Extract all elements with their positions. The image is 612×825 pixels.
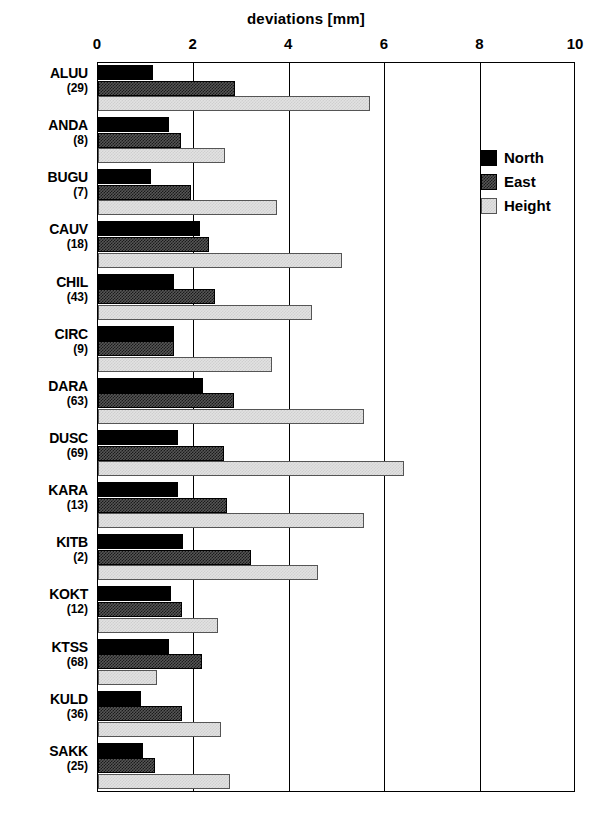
bar-aluu-east bbox=[98, 81, 235, 96]
bar-dara-east bbox=[98, 393, 234, 408]
legend-label-north: North bbox=[504, 150, 544, 166]
category-label-kara: KARA(13) bbox=[0, 483, 88, 512]
category-label-anda: ANDA(8) bbox=[0, 118, 88, 147]
station-count: (2) bbox=[0, 550, 88, 564]
station-name: CHIL bbox=[0, 275, 88, 290]
bar-circ-north bbox=[98, 326, 174, 341]
bar-dusc-north bbox=[98, 430, 178, 445]
station-name: KTSS bbox=[0, 640, 88, 655]
bar-kokt-north bbox=[98, 586, 171, 601]
x-tick-label-10: 10 bbox=[567, 35, 584, 52]
bar-cauv-east bbox=[98, 237, 209, 252]
station-name: KOKT bbox=[0, 587, 88, 602]
station-count: (68) bbox=[0, 655, 88, 669]
station-count: (29) bbox=[0, 81, 88, 95]
station-name: DUSC bbox=[0, 431, 88, 446]
category-label-bugu: BUGU(7) bbox=[0, 170, 88, 199]
bar-ktss-north bbox=[98, 639, 169, 654]
station-name: ALUU bbox=[0, 66, 88, 81]
station-count: (7) bbox=[0, 185, 88, 199]
bar-kitb-height bbox=[98, 565, 318, 580]
station-name: DARA bbox=[0, 379, 88, 394]
station-count: (69) bbox=[0, 446, 88, 460]
station-count: (9) bbox=[0, 342, 88, 356]
bar-kara-east bbox=[98, 498, 227, 513]
station-count: (43) bbox=[0, 290, 88, 304]
legend-item-north: North bbox=[481, 146, 573, 170]
bar-sakk-east bbox=[98, 758, 155, 773]
north-swatch-icon bbox=[481, 150, 497, 166]
bar-circ-east bbox=[98, 341, 174, 356]
bar-aluu-height bbox=[98, 96, 370, 111]
station-name: CIRC bbox=[0, 327, 88, 342]
station-count: (25) bbox=[0, 759, 88, 773]
station-name: BUGU bbox=[0, 170, 88, 185]
category-label-chil: CHIL(43) bbox=[0, 275, 88, 304]
station-name: KITB bbox=[0, 535, 88, 550]
gridline-6 bbox=[384, 63, 385, 791]
station-count: (8) bbox=[0, 133, 88, 147]
east-swatch-icon bbox=[481, 174, 497, 190]
station-count: (18) bbox=[0, 237, 88, 251]
bar-kara-height bbox=[98, 513, 364, 528]
bar-cauv-height bbox=[98, 253, 342, 268]
station-name: KARA bbox=[0, 483, 88, 498]
station-count: (13) bbox=[0, 498, 88, 512]
bar-kuld-height bbox=[98, 722, 221, 737]
bar-ktss-east bbox=[98, 654, 202, 669]
bar-kokt-height bbox=[98, 618, 218, 633]
bar-kara-north bbox=[98, 482, 178, 497]
gridline-2 bbox=[193, 63, 194, 791]
category-label-dara: DARA(63) bbox=[0, 379, 88, 408]
bar-chil-north bbox=[98, 274, 174, 289]
bar-bugu-height bbox=[98, 200, 277, 215]
station-name: SAKK bbox=[0, 744, 88, 759]
bar-circ-height bbox=[98, 357, 272, 372]
bar-anda-height bbox=[98, 148, 225, 163]
station-count: (12) bbox=[0, 602, 88, 616]
bar-ktss-height bbox=[98, 670, 157, 685]
bar-anda-east bbox=[98, 133, 181, 148]
category-label-kitb: KITB(2) bbox=[0, 535, 88, 564]
bar-kitb-north bbox=[98, 534, 183, 549]
x-tick-label-2: 2 bbox=[188, 35, 196, 52]
chart-page: deviations [mm] 0246810 ALUU(29)ANDA(8)B… bbox=[0, 0, 612, 825]
bar-dusc-east bbox=[98, 446, 224, 461]
legend: North East Height bbox=[481, 146, 573, 218]
bar-dara-height bbox=[98, 409, 364, 424]
bar-chil-height bbox=[98, 305, 312, 320]
bar-kuld-north bbox=[98, 691, 141, 706]
category-label-circ: CIRC(9) bbox=[0, 327, 88, 356]
bar-cauv-north bbox=[98, 221, 200, 236]
bar-dara-north bbox=[98, 378, 203, 393]
legend-label-east: East bbox=[504, 174, 536, 190]
category-label-dusc: DUSC(69) bbox=[0, 431, 88, 460]
station-name: KULD bbox=[0, 692, 88, 707]
category-label-kuld: KULD(36) bbox=[0, 692, 88, 721]
chart-title: deviations [mm] bbox=[0, 10, 612, 27]
legend-item-east: East bbox=[481, 170, 573, 194]
category-label-kokt: KOKT(12) bbox=[0, 587, 88, 616]
legend-item-height: Height bbox=[481, 194, 573, 218]
bar-kitb-east bbox=[98, 550, 251, 565]
category-label-cauv: CAUV(18) bbox=[0, 222, 88, 251]
bar-dusc-height bbox=[98, 461, 404, 476]
bar-kuld-east bbox=[98, 706, 182, 721]
bar-chil-east bbox=[98, 289, 215, 304]
station-name: ANDA bbox=[0, 118, 88, 133]
x-tick-label-8: 8 bbox=[475, 35, 483, 52]
station-name: CAUV bbox=[0, 222, 88, 237]
bar-anda-north bbox=[98, 117, 169, 132]
x-tick-label-0: 0 bbox=[93, 35, 101, 52]
x-tick-label-6: 6 bbox=[380, 35, 388, 52]
bar-bugu-east bbox=[98, 185, 191, 200]
bar-sakk-height bbox=[98, 774, 230, 789]
category-label-ktss: KTSS(68) bbox=[0, 640, 88, 669]
height-swatch-icon bbox=[481, 198, 497, 214]
x-tick-label-4: 4 bbox=[284, 35, 292, 52]
category-label-sakk: SAKK(25) bbox=[0, 744, 88, 773]
gridline-4 bbox=[289, 63, 290, 791]
station-count: (36) bbox=[0, 707, 88, 721]
legend-label-height: Height bbox=[504, 198, 551, 214]
category-label-aluu: ALUU(29) bbox=[0, 66, 88, 95]
